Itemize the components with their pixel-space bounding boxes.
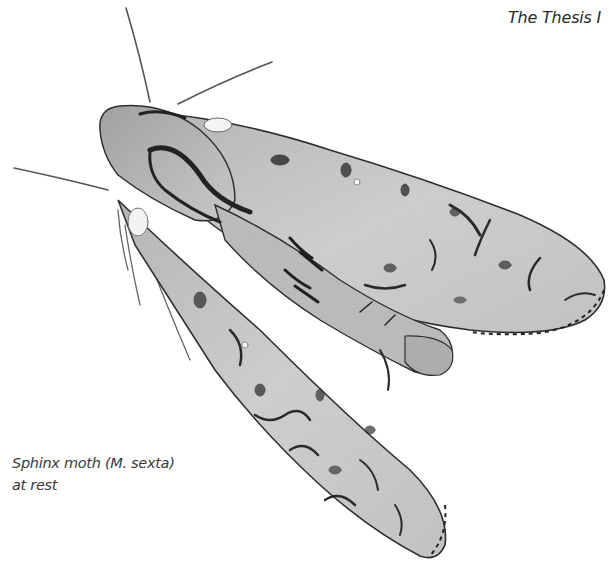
antenna-left — [14, 168, 108, 190]
antenna-upper-left — [126, 8, 150, 102]
caption-line-2: at rest — [12, 474, 175, 496]
figure-caption: Sphinx moth (M. sexta) at rest — [12, 452, 175, 496]
caption-line-1: Sphinx moth (M. sexta) — [12, 452, 175, 474]
antenna-upper-right — [178, 62, 272, 104]
